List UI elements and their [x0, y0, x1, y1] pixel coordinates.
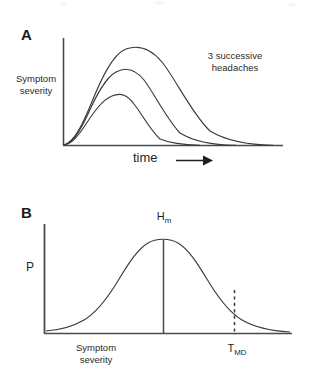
- threshold-marker-label: TMD: [222, 343, 252, 355]
- panel-b-letter: B: [21, 205, 32, 220]
- panel-a-letter: A: [21, 27, 32, 42]
- mode-marker-label: Hm: [152, 211, 176, 223]
- panel-b-y-axis-label: P: [26, 262, 34, 274]
- mode-marker-label-sub: m: [165, 216, 172, 225]
- threshold-marker-label-sub: MD: [234, 348, 246, 357]
- panel-b-x-axis-label: Symptom severity: [63, 342, 129, 365]
- panel-a-x-axis-label: time: [133, 152, 175, 164]
- figure-root: A Symptom severity 3 successive headache…: [0, 0, 309, 384]
- panel-a-y-axis-label: Symptom severity: [6, 73, 66, 96]
- time-arrow-head: [203, 156, 213, 166]
- mode-marker-label-main: H: [157, 210, 165, 222]
- severity-distribution-curve: [46, 239, 290, 332]
- panel-a: A Symptom severity 3 successive headache…: [0, 0, 309, 192]
- panel-a-annotation: 3 successive headaches: [192, 50, 278, 73]
- panel-b: B P Hm TMD Symptom severity: [0, 192, 309, 384]
